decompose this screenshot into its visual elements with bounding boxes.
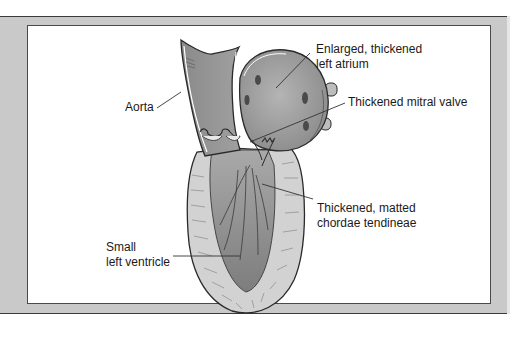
- label-chordae-line2: chordae tendineae: [317, 216, 416, 231]
- left-ventricle-wall: [187, 146, 304, 313]
- label-left-atrium-line2: left atrium: [316, 57, 422, 72]
- label-left-atrium-line1: Enlarged, thickened: [316, 42, 422, 57]
- label-chordae: Thickened, matted chordae tendineae: [317, 201, 416, 231]
- label-aorta: Aorta: [125, 100, 154, 115]
- label-chordae-line1: Thickened, matted: [317, 201, 416, 216]
- label-left-ventricle-line2: left ventricle: [106, 255, 170, 270]
- heart-illustration: [0, 0, 525, 337]
- label-left-ventricle: Small left ventricle: [106, 240, 170, 270]
- label-left-ventricle-line1: Small: [106, 240, 170, 255]
- label-left-atrium: Enlarged, thickened left atrium: [316, 42, 422, 72]
- label-mitral-valve-text: Thickened mitral valve: [348, 95, 467, 110]
- label-mitral-valve: Thickened mitral valve: [348, 95, 467, 110]
- aorta: [181, 40, 241, 156]
- leader-aorta: [157, 92, 181, 108]
- label-aorta-text: Aorta: [125, 100, 154, 115]
- figure: Aorta Enlarged, thickened left atrium Th…: [0, 0, 525, 337]
